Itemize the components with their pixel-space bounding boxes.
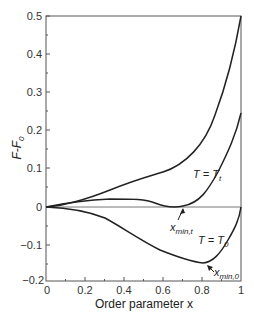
y-tick-label: 0.2 [27, 124, 42, 136]
y-tick-label: 0.4 [27, 48, 42, 60]
y-tick-label: 0 [36, 201, 42, 213]
x-tick-label: 0.2 [77, 284, 92, 296]
x-tick-label: 0.8 [194, 284, 209, 296]
y-axis-label: F-F0 [10, 136, 26, 160]
label-xmin0: xmin,0 [213, 266, 240, 281]
label-t-tt: T = Tt [193, 168, 222, 183]
label-t-t0: T = T0 [198, 234, 229, 249]
chart: 0.5 0.4 0.3 0.2 0.1 0 −0.1 −0.2 0 0.2 0.… [0, 0, 254, 316]
x-tick-label: 0.4 [116, 284, 131, 296]
x-axis-label: Order parameter x [95, 297, 193, 311]
x-axis [66, 277, 222, 281]
label-xmint: xmin,t [169, 221, 194, 236]
y-tick-label: 0.3 [27, 86, 42, 98]
y-axis [46, 16, 50, 264]
x-tick-label: 0.6 [155, 284, 170, 296]
y-tick-label: 0.5 [27, 10, 42, 22]
x-tick-label: 1 [238, 284, 244, 296]
y-tick-label: −0.2 [22, 274, 44, 286]
x-tick-label: 0 [44, 284, 50, 296]
curve-t-equals-tt [46, 113, 241, 207]
y-tick-label: −0.1 [20, 239, 42, 251]
y-tick-label: 0.1 [27, 162, 42, 174]
